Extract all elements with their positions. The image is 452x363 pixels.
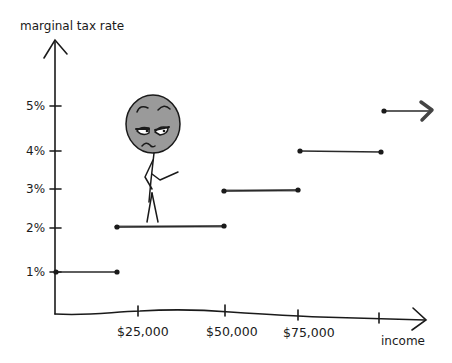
stick-figure (126, 95, 180, 222)
head (126, 95, 180, 153)
x-tick-labels: $25,000 $50,000 $75,000 (117, 324, 335, 340)
y-tick-labels: 5% 4% 3% 2% 1% (26, 99, 45, 279)
segment-1pct (53, 269, 119, 274)
x-axis-title: income (381, 334, 425, 348)
y-tick-1: 1% (26, 265, 45, 279)
y-tick-4: 4% (26, 144, 45, 158)
x-tick-50000: $50,000 (206, 324, 258, 339)
x-tick-75000: $75,000 (283, 325, 335, 340)
bracket-segments (53, 102, 432, 275)
segment-2pct (114, 223, 226, 229)
x-tick-25000: $25,000 (117, 324, 169, 339)
y-tick-5: 5% (26, 99, 45, 113)
y-axis-title: marginal tax rate (20, 19, 124, 33)
y-tick-3: 3% (26, 182, 45, 196)
segment-3pct (221, 187, 300, 193)
tax-bracket-chart: marginal tax rate 5% 4% 3% 2% 1% $25,000… (0, 0, 452, 363)
y-tick-2: 2% (26, 221, 45, 235)
segment-5pct (381, 102, 432, 120)
segment-4pct (297, 148, 383, 154)
